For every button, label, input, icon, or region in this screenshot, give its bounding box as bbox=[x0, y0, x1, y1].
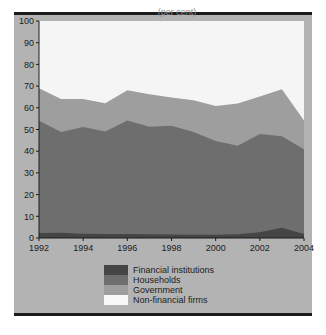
legend-label: Financial institutions bbox=[133, 265, 214, 275]
y-tick-label: 0 bbox=[29, 233, 34, 243]
y-tick-label: 60 bbox=[24, 103, 34, 113]
y-tick-label: 40 bbox=[24, 146, 34, 156]
y-tick-label: 10 bbox=[24, 212, 34, 222]
x-tick-label: 2004 bbox=[294, 243, 314, 253]
legend-item: Financial institutions bbox=[104, 265, 254, 275]
legend-swatch bbox=[104, 265, 128, 275]
y-tick-label: 20 bbox=[24, 190, 34, 200]
figure-root: (per cent) 01020304050607080901001992199… bbox=[0, 0, 326, 335]
x-tick-label: 1998 bbox=[161, 243, 181, 253]
legend-label: Non-financial firms bbox=[133, 295, 208, 305]
legend-swatch bbox=[104, 285, 128, 295]
legend-item: Non-financial firms bbox=[104, 295, 254, 305]
legend-item: Government bbox=[104, 285, 254, 295]
y-tick-label: 30 bbox=[24, 168, 34, 178]
legend-label: Households bbox=[133, 275, 181, 285]
y-tick-label: 90 bbox=[24, 38, 34, 48]
y-tick-label: 70 bbox=[24, 81, 34, 91]
x-tick-label: 1994 bbox=[73, 243, 93, 253]
legend-label: Government bbox=[133, 285, 183, 295]
y-tick-label: 80 bbox=[24, 60, 34, 70]
y-tick-label: 100 bbox=[19, 16, 34, 26]
legend-swatch bbox=[104, 295, 128, 305]
legend-swatch bbox=[104, 275, 128, 285]
y-tick-label: 50 bbox=[24, 125, 34, 135]
legend-item: Households bbox=[104, 275, 254, 285]
area-series-households bbox=[39, 121, 304, 238]
x-tick-label: 2002 bbox=[250, 243, 270, 253]
x-tick-label: 1992 bbox=[29, 243, 49, 253]
chart-legend: Financial institutionsHouseholdsGovernme… bbox=[104, 265, 254, 305]
x-tick-label: 2000 bbox=[206, 243, 226, 253]
x-tick-label: 1996 bbox=[117, 243, 137, 253]
